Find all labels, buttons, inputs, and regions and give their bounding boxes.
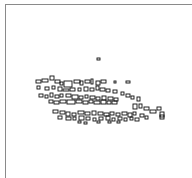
building-footprint [86,117,90,120]
building-footprint [137,97,140,101]
building-footprint [135,118,139,121]
building-footprint [133,104,137,109]
building-footprint [60,100,66,103]
building-footprint [160,112,164,117]
building-footprint [85,112,90,115]
building-footprint [80,81,83,85]
building-footprint [66,117,71,120]
building-footprint [64,81,72,87]
building-footprint [122,112,127,115]
building-footprint [37,86,40,89]
building-footprint [145,116,148,119]
building-footprint [117,121,120,123]
building-footprint [78,88,81,91]
building-footprint [78,111,84,114]
building-footprint [50,93,53,97]
building-footprint [45,87,49,90]
building-footprint [67,100,75,104]
building-footprint [100,88,105,91]
building-footprint [63,89,69,91]
building-footprint [78,121,81,123]
building-footprint [53,110,58,113]
building-footprint [36,80,41,83]
building-footprint [139,104,142,108]
building-footprint [140,114,144,117]
building-footprint [121,92,124,95]
building-footprint [42,79,48,82]
building-footprint [98,112,103,115]
building-footprint [133,112,136,115]
building-footprint [108,121,111,123]
building-footprint [84,122,87,124]
building-footprint [49,100,53,103]
building-footprint [50,76,54,80]
building-footprint [58,116,62,119]
building-footprint [91,79,93,84]
building-footprint [102,96,106,100]
building-footprint [106,116,110,120]
building-footprint [70,88,75,91]
building-footprint [74,80,80,83]
building-footprint [52,86,55,89]
building-footprint [96,81,100,85]
building-footprint [110,112,114,115]
building-footprint-map[interactable] [0,0,192,178]
building-footprint [93,118,96,121]
building-footprint [90,88,94,91]
building-footprint [150,110,156,113]
building-footprint [131,96,134,99]
building-footprint [128,113,132,117]
building-footprint [60,111,65,114]
building-footprint [114,81,116,83]
building-footprint [85,80,90,83]
building-footprint [73,117,76,120]
building-footprint [108,97,113,100]
building-footprint [79,96,83,99]
building-footprint [94,101,100,104]
building-footprint [96,97,100,100]
building-footprint [60,94,63,97]
building-footprint [130,117,133,120]
building-footprint [106,89,110,92]
building-footprint [107,101,111,104]
building-footprint [76,100,82,103]
building-footprint [60,82,63,85]
building-footprint [157,107,161,110]
building-footprint [54,101,59,104]
building-footprint [126,81,130,83]
building-footprint [85,95,88,98]
building-footprint [72,113,76,116]
building-footprint [97,58,100,60]
building-footprint [45,95,48,98]
building-footprint [112,118,115,121]
building-footprint [39,94,43,97]
building-footprint [97,121,100,123]
building-footprint [58,87,62,91]
building-footprint [92,111,96,115]
building-footprint [118,117,122,120]
building-footprint [116,113,120,116]
building-footprint [112,101,117,104]
building-footprint [72,95,78,99]
building-footprint [55,80,60,83]
building-footprint [144,107,149,110]
building-footprint [89,100,93,103]
building-footprint [66,94,71,97]
building-footprint [96,86,99,90]
building-footprint [113,90,117,93]
building-footprint [79,116,84,120]
building-footprint [84,87,88,91]
building-footprint [101,100,106,104]
building-footprint [126,94,130,97]
building-footprint [124,118,127,121]
building-footprint [99,117,103,120]
building-footprint [55,95,59,98]
building-footprint [90,96,95,99]
building-footprint [83,101,88,104]
building-footprint [101,80,106,83]
building-footprint [66,112,70,116]
